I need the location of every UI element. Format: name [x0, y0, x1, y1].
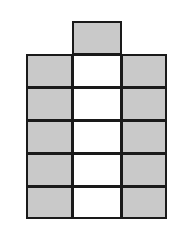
grid-cell-r4-c0	[26, 186, 73, 219]
grid-cell-r2-c0	[26, 120, 73, 154]
grid-cell-r3-c2	[121, 153, 167, 187]
grid-cell-r2-c2	[121, 120, 167, 154]
grid-cell-r2-c1	[72, 120, 122, 154]
grid-cell-r1-c2	[121, 87, 167, 121]
grid-cell-r4-c2	[121, 186, 167, 219]
grid-cell-r0-c0	[26, 54, 73, 88]
top-square	[72, 21, 122, 55]
grid-cell-r3-c1	[72, 153, 122, 187]
grid-cell-r0-c2	[121, 54, 167, 88]
grid-cell-r1-c1	[72, 87, 122, 121]
grid-cell-r3-c0	[26, 153, 73, 187]
grid-cell-r0-c1	[72, 54, 122, 88]
grid-cell-r1-c0	[26, 87, 73, 121]
grid-cell-r4-c1	[72, 186, 122, 219]
